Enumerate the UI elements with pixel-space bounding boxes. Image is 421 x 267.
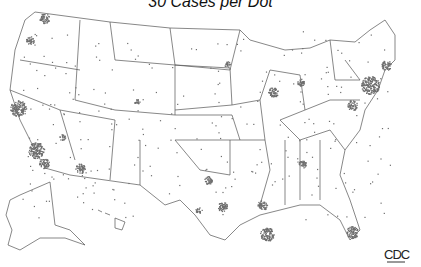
cdc-logo-underline bbox=[387, 261, 405, 263]
us-dot-density-map bbox=[0, 0, 421, 267]
cdc-logo: CDC bbox=[384, 247, 409, 262]
case-dots bbox=[10, 14, 392, 241]
state-borders bbox=[6, 12, 395, 250]
